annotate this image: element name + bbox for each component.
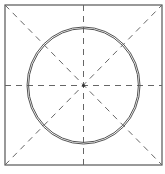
center-dot: [82, 84, 85, 87]
diagram-canvas: [0, 0, 165, 174]
center-mark: [82, 84, 85, 87]
